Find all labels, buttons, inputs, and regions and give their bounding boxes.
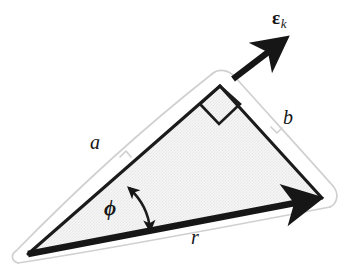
halo-apex-cap (212, 70, 235, 77)
label-epsilon-symbol: ε (272, 7, 280, 28)
halo-left-cap (12, 251, 18, 263)
label-vector-epsilon-k: εk (272, 8, 286, 30)
halo-tick-a (120, 151, 131, 157)
label-angle-phi: ϕ (104, 198, 116, 219)
label-epsilon-subscript: k (281, 16, 287, 31)
label-side-a: a (90, 132, 100, 152)
figure-canvas: a b r ϕ εk (0, 0, 347, 272)
epsilon-k-vector (233, 40, 284, 79)
halo-right-cap (330, 186, 337, 207)
triangle-vector-diagram (0, 0, 347, 272)
label-side-b: b (283, 107, 293, 127)
label-base-r: r (191, 227, 199, 247)
